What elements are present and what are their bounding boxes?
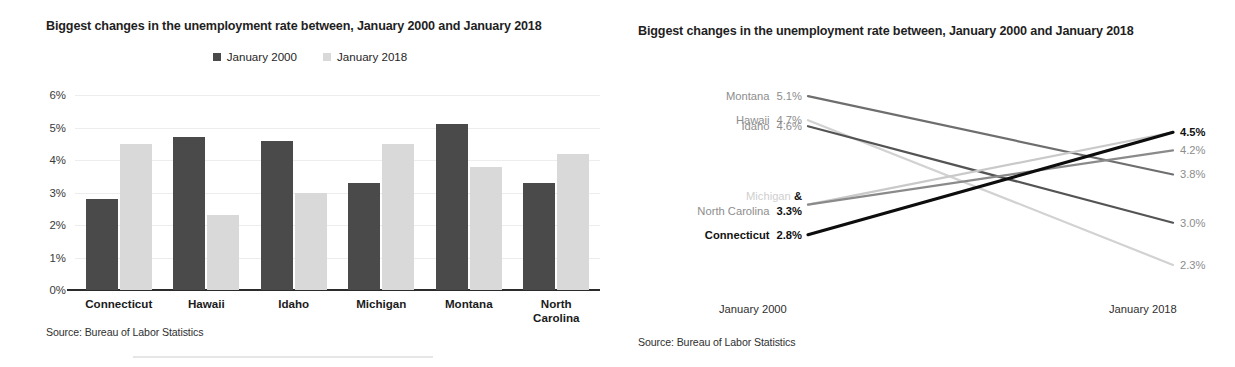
bar-chart-legend: January 2000 January 2018 bbox=[0, 50, 620, 63]
y-axis-tick-label: 1% bbox=[50, 252, 66, 264]
slope-right-label: 3.8% bbox=[1180, 168, 1206, 180]
slope-right-label: 4.2% bbox=[1180, 144, 1206, 156]
bar[interactable] bbox=[173, 137, 205, 290]
y-axis-tick-label: 3% bbox=[50, 187, 66, 199]
legend-label: January 2018 bbox=[337, 50, 407, 63]
bar-group[interactable]: Michigan bbox=[338, 95, 426, 290]
bar[interactable] bbox=[207, 215, 239, 290]
slope-axis-caption-left: January 2000 bbox=[719, 303, 787, 315]
slope-value-label: 3.8% bbox=[1180, 168, 1206, 180]
x-axis-category-label: Hawaii bbox=[188, 297, 225, 311]
slope-value-label: 2.8% bbox=[777, 229, 803, 241]
slope-left-label: Michigan &North Carolina3.3% bbox=[697, 189, 802, 219]
slope-series-name: Connecticut bbox=[705, 229, 770, 241]
slope-left-label: Montana5.1% bbox=[726, 90, 802, 102]
x-axis-category-label: Montana bbox=[445, 297, 493, 311]
slope-value-label: 4.5% bbox=[1180, 126, 1206, 138]
bar-chart-source-note: Source: Bureau of Labor Statistics bbox=[46, 326, 203, 338]
y-axis-tick-label: 2% bbox=[50, 219, 66, 231]
slope-line[interactable] bbox=[808, 96, 1173, 174]
slope-value-label: 3.3% bbox=[777, 205, 803, 217]
slope-chart-source-note: Source: Bureau of Labor Statistics bbox=[638, 336, 795, 348]
x-axis-category-label: North Carolina bbox=[533, 297, 579, 324]
bar-chart-panel: Biggest changes in the unemployment rate… bbox=[0, 0, 620, 367]
slope-value-label: 3.0% bbox=[1180, 217, 1206, 229]
slope-left-label-line2: North Carolina3.3% bbox=[697, 204, 802, 219]
bar-group[interactable]: Hawaii bbox=[163, 95, 251, 290]
slope-series-name: Montana bbox=[726, 90, 770, 102]
bar-group[interactable]: Montana bbox=[425, 95, 513, 290]
scan-artifact-line bbox=[133, 356, 433, 358]
slope-value-label: 4.2% bbox=[1180, 144, 1206, 156]
slope-axis-caption-right: January 2018 bbox=[1109, 303, 1177, 315]
bar-groups: ConnecticutHawaiiIdahoMichiganMontanaNor… bbox=[75, 95, 600, 290]
y-axis-tick-label: 5% bbox=[50, 122, 66, 134]
slope-left-label: Connecticut2.8% bbox=[705, 229, 802, 241]
slope-right-label: 4.5% bbox=[1180, 126, 1206, 138]
slope-line[interactable] bbox=[808, 126, 1173, 222]
slope-chart-panel: Biggest changes in the unemployment rate… bbox=[620, 0, 1235, 367]
bar-group[interactable]: Idaho bbox=[250, 95, 338, 290]
slope-series-name: Idaho bbox=[742, 120, 770, 132]
bar-group[interactable]: North Carolina bbox=[513, 95, 601, 290]
slope-left-label-line1: Michigan & bbox=[697, 189, 802, 204]
bar[interactable] bbox=[436, 124, 468, 290]
bar[interactable] bbox=[261, 141, 293, 291]
bar-group[interactable]: Connecticut bbox=[75, 95, 163, 290]
bar[interactable] bbox=[348, 183, 380, 290]
bar-chart-plot-area: 0%1%2%3%4%5%6%ConnecticutHawaiiIdahoMich… bbox=[75, 95, 600, 290]
bar[interactable] bbox=[295, 193, 327, 291]
legend-item-january-2018: January 2018 bbox=[323, 50, 407, 63]
slope-label-ampersand: & bbox=[791, 190, 802, 202]
slope-line[interactable] bbox=[808, 120, 1173, 265]
slope-value-label: 4.6% bbox=[777, 120, 803, 132]
y-axis-tick-label: 4% bbox=[50, 154, 66, 166]
y-axis-tick-label: 0% bbox=[50, 284, 66, 296]
bar[interactable] bbox=[470, 167, 502, 291]
slope-left-label: Idaho4.6% bbox=[742, 120, 803, 132]
slope-right-label: 2.3% bbox=[1180, 259, 1206, 271]
legend-item-january-2000: January 2000 bbox=[213, 50, 297, 63]
slope-series-name-michigan: Michigan bbox=[746, 190, 791, 202]
legend-square-icon bbox=[213, 53, 221, 61]
slope-value-label: 2.3% bbox=[1180, 259, 1206, 271]
slope-series-name-north-carolina: North Carolina bbox=[697, 205, 769, 217]
x-axis-category-label: Idaho bbox=[278, 297, 309, 311]
slope-line[interactable] bbox=[808, 132, 1173, 204]
slope-right-label: 3.0% bbox=[1180, 217, 1206, 229]
screenshot-root: Biggest changes in the unemployment rate… bbox=[0, 0, 1235, 367]
bar[interactable] bbox=[557, 154, 589, 291]
x-axis-category-label: Michigan bbox=[356, 297, 406, 311]
bar[interactable] bbox=[382, 144, 414, 290]
bar-chart-title: Biggest changes in the unemployment rate… bbox=[46, 19, 542, 33]
legend-square-icon bbox=[323, 53, 331, 61]
bar[interactable] bbox=[120, 144, 152, 290]
slope-line[interactable] bbox=[808, 150, 1173, 204]
slope-value-label: 5.1% bbox=[777, 90, 803, 102]
legend-label: January 2000 bbox=[227, 50, 297, 63]
y-axis-tick-label: 6% bbox=[50, 89, 66, 101]
bar[interactable] bbox=[523, 183, 555, 290]
x-axis-category-label: Connecticut bbox=[85, 297, 152, 311]
bar[interactable] bbox=[86, 199, 118, 290]
slope-line[interactable] bbox=[808, 132, 1173, 235]
